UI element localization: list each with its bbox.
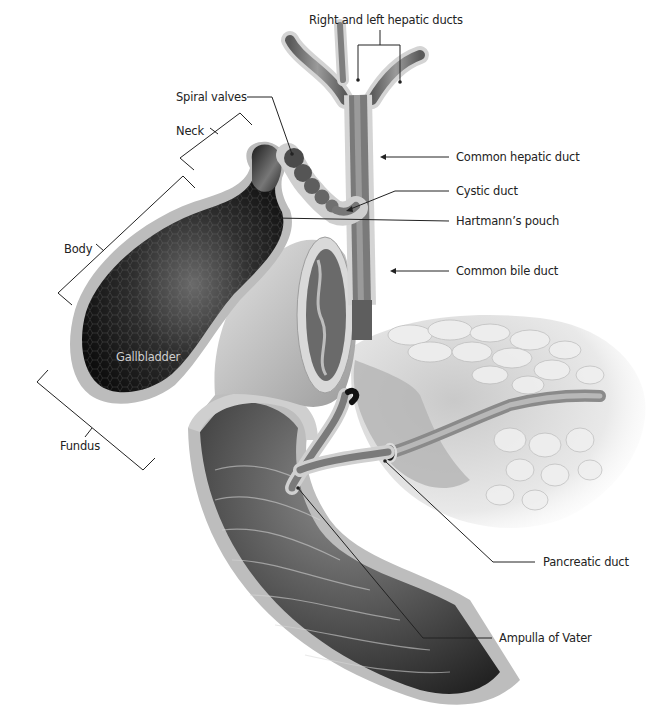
bracket-body-tick: [96, 244, 104, 251]
label-spiral-valves: Spiral valves: [176, 90, 247, 104]
label-common-bile-duct: Common bile duct: [456, 264, 558, 278]
pancreas: [351, 315, 645, 528]
label-body: Body: [64, 242, 92, 256]
bracket-fundus-tick: [85, 428, 92, 437]
label-fundus: Fundus: [60, 439, 100, 453]
label-neck: Neck: [176, 124, 204, 138]
label-hepatic-ducts: Right and left hepatic ducts: [309, 13, 463, 27]
illustration: [0, 0, 658, 724]
anatomy-diagram: Right and left hepatic ducts Spiral valv…: [0, 0, 658, 724]
label-pancreatic-duct: Pancreatic duct: [543, 555, 629, 569]
label-ampulla-of-vater: Ampulla of Vater: [499, 631, 592, 645]
label-gallbladder: Gallbladder: [116, 350, 180, 364]
label-common-hepatic-duct: Common hepatic duct: [456, 150, 579, 164]
label-cystic-duct: Cystic duct: [456, 184, 518, 198]
label-hartmanns-pouch: Hartmann’s pouch: [456, 214, 559, 228]
